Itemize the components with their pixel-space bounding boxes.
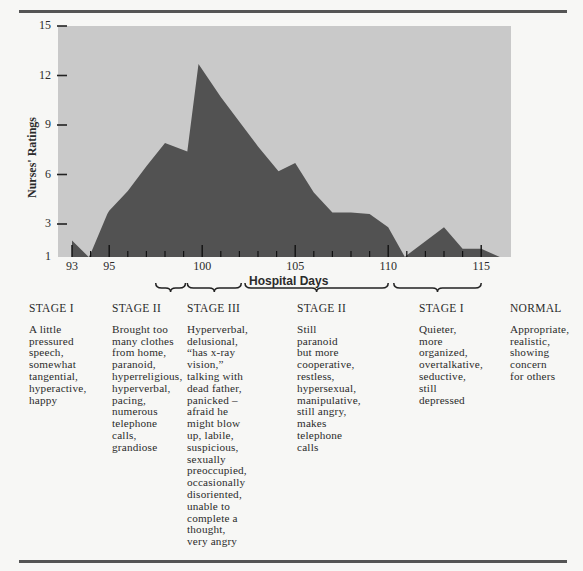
stage-2: STAGE II Brought too many clothes from h… — [112, 303, 182, 454]
x-tick-label: 110 — [373, 259, 403, 274]
y-axis-title: Nurses' Ratings — [25, 110, 40, 206]
stage-description: Quieter, more organized, overtalkative, … — [419, 324, 483, 407]
x-tick-label: 100 — [187, 259, 217, 274]
stage-3: STAGE III Hyperverbal, delusional, “has … — [187, 303, 248, 548]
stage-description: Brought too many clothes from home, para… — [112, 324, 182, 454]
stage-description: Still paranoid but more cooperative, res… — [297, 324, 361, 454]
stage-6: NORMAL Appropriate, realistic, showing c… — [510, 303, 569, 383]
stage-1: STAGE I A little pressured speech, somew… — [29, 303, 86, 406]
x-tick-label: 95 — [94, 259, 124, 274]
y-tick-label: 3 — [31, 216, 51, 231]
x-tick-label: 93 — [57, 259, 87, 274]
stage-title: STAGE II — [297, 303, 361, 315]
stage-title: STAGE I — [29, 303, 86, 315]
bottom-rule — [19, 560, 567, 563]
stage-description: A little pressured speech, somewhat tang… — [29, 324, 86, 407]
x-tick-label: 115 — [466, 259, 496, 274]
y-tick-label: 15 — [31, 18, 51, 33]
stage-title: STAGE I — [419, 303, 483, 315]
stage-description: Appropriate, realistic, showing concern … — [510, 324, 569, 383]
x-tick-label: 105 — [280, 259, 310, 274]
stage-description: Hyperverbal, delusional, “has x-ray visi… — [187, 324, 248, 548]
y-tick-label: 12 — [31, 68, 51, 83]
stage-title: STAGE II — [112, 303, 182, 315]
stage-4: STAGE II Still paranoid but more coopera… — [297, 303, 361, 454]
y-tick-label: 1 — [31, 249, 51, 264]
stage-5: STAGE I Quieter, more organized, overtal… — [419, 303, 483, 406]
area-chart — [0, 0, 583, 300]
stage-title: STAGE III — [187, 303, 248, 315]
stage-title: NORMAL — [510, 303, 569, 315]
x-axis-title: Hospital Days — [249, 274, 328, 288]
